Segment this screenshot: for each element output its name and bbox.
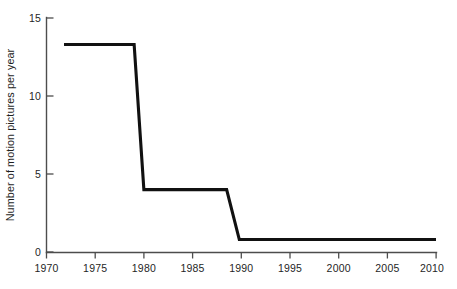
x-tick-label-1985: 1985 [181,262,205,274]
y-tick-marks [47,18,54,252]
x-tick-label-1995: 1995 [278,262,302,274]
x-tick-label-2010: 2010 [420,262,444,274]
x-tick-label-1980: 1980 [132,262,156,274]
x-tick-label-1970: 1970 [34,262,58,274]
x-tick-label-1975: 1975 [83,262,107,274]
figure-caption [52,283,452,289]
x-tick-label-1990: 1990 [229,262,253,274]
x-tick-label-2000: 2000 [327,262,351,274]
x-tick-marks [47,253,437,259]
y-tick-label-15: 15 [29,12,41,24]
data-series-line [64,45,436,240]
y-tick-label-10: 10 [29,90,41,102]
y-axis-title: Number of motion pictures per year [4,48,16,221]
y-tick-label-5: 5 [35,168,41,180]
line-chart: 15 10 5 0 1970 1975 1980 1985 1990 1995 … [0,0,457,289]
chart-figure: 15 10 5 0 1970 1975 1980 1985 1990 1995 … [0,0,457,289]
y-tick-label-0: 0 [35,246,41,258]
x-tick-label-2005: 2005 [375,262,399,274]
